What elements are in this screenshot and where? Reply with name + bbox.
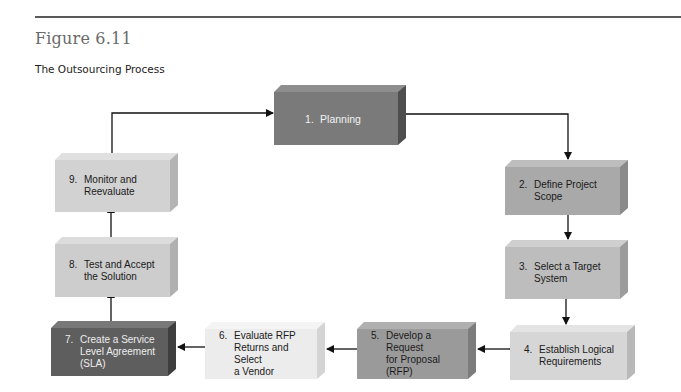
step-label: 2.Define Project Scope xyxy=(519,179,597,203)
step-number: 8. xyxy=(69,259,84,283)
step-2-define-project-scope: 2.Define Project Scope xyxy=(505,160,628,215)
box-top-face xyxy=(205,322,325,329)
box-side-face xyxy=(317,322,325,379)
step-label: 6.Evaluate RFP Returns and Select a Vend… xyxy=(219,330,311,378)
step-9-monitor-and-reevaluate: 9.Monitor and Reevaluate xyxy=(55,153,178,212)
step-number: 1. xyxy=(305,113,320,125)
step-3-select-target-system: 3.Select a Target System xyxy=(505,240,628,299)
step-4-establish-logical-requirements: 4.Establish Logical Requirements xyxy=(510,325,635,380)
arrow-1-to-2 xyxy=(398,114,568,159)
step-label: 9.Monitor and Reevaluate xyxy=(69,174,137,198)
step-number: 5. xyxy=(371,330,386,378)
step-6-evaluate-rfp-returns: 6.Evaluate RFP Returns and Select a Vend… xyxy=(205,322,325,379)
step-number: 9. xyxy=(69,174,84,198)
step-text: Select a Target System xyxy=(534,261,601,285)
box-top-face xyxy=(505,160,628,167)
step-1-planning: 1.Planning xyxy=(274,85,406,145)
step-label: 1.Planning xyxy=(305,113,361,125)
step-text: Create a Service Level Agreement (SLA) xyxy=(80,334,155,370)
box-top-face xyxy=(274,85,406,92)
box-side-face xyxy=(468,322,476,379)
box-side-face xyxy=(627,325,635,380)
step-8-test-and-accept: 8.Test and Accept the Solution xyxy=(55,237,178,297)
box-front-face: 7.Create a Service Level Agreement (SLA) xyxy=(51,328,168,376)
box-top-face xyxy=(505,240,628,247)
step-text: Monitor and Reevaluate xyxy=(84,174,137,198)
box-front-face: 4.Establish Logical Requirements xyxy=(510,332,627,380)
step-label: 8.Test and Accept the Solution xyxy=(69,259,155,283)
box-side-face xyxy=(168,321,176,376)
step-text: Develop a Request for Proposal (RFP) xyxy=(386,330,462,378)
box-front-face: 3.Select a Target System xyxy=(505,247,620,299)
step-label: 7.Create a Service Level Agreement (SLA) xyxy=(65,334,155,370)
step-number: 2. xyxy=(519,179,534,203)
step-text: Test and Accept the Solution xyxy=(84,259,155,283)
box-front-face: 1.Planning xyxy=(274,92,398,145)
box-side-face xyxy=(398,85,406,145)
box-top-face xyxy=(51,321,176,328)
step-text: Planning xyxy=(320,113,361,125)
step-5-develop-rfp: 5.Develop a Request for Proposal (RFP) xyxy=(357,322,476,379)
box-front-face: 8.Test and Accept the Solution xyxy=(55,244,170,297)
box-side-face xyxy=(170,237,178,297)
box-side-face xyxy=(170,153,178,212)
box-top-face xyxy=(510,325,635,332)
step-text: Evaluate RFP Returns and Select a Vendor xyxy=(234,330,311,378)
step-label: 4.Establish Logical Requirements xyxy=(524,344,614,368)
box-front-face: 5.Develop a Request for Proposal (RFP) xyxy=(357,329,468,379)
step-text: Establish Logical Requirements xyxy=(539,344,614,368)
step-label: 3.Select a Target System xyxy=(519,261,601,285)
step-label: 5.Develop a Request for Proposal (RFP) xyxy=(371,330,462,378)
box-side-face xyxy=(620,160,628,215)
box-top-face xyxy=(55,237,178,244)
step-number: 6. xyxy=(219,330,234,378)
step-7-create-sla: 7.Create a Service Level Agreement (SLA) xyxy=(51,321,176,376)
step-number: 3. xyxy=(519,261,534,285)
step-number: 7. xyxy=(65,334,80,370)
step-text: Define Project Scope xyxy=(534,179,597,203)
box-front-face: 9.Monitor and Reevaluate xyxy=(55,160,170,212)
box-front-face: 2.Define Project Scope xyxy=(505,167,620,215)
box-top-face xyxy=(55,153,178,160)
box-side-face xyxy=(620,240,628,299)
box-front-face: 6.Evaluate RFP Returns and Select a Vend… xyxy=(205,329,317,379)
step-number: 4. xyxy=(524,344,539,368)
arrow-9-to-1 xyxy=(112,113,273,153)
box-top-face xyxy=(357,322,476,329)
